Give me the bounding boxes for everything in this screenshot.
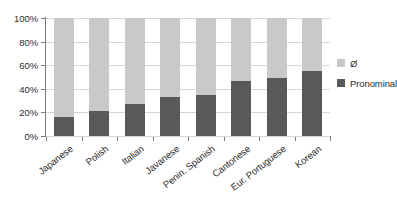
y-axis-tick-label: 0%	[24, 131, 38, 142]
plot-area	[46, 18, 330, 136]
y-axis-tick-mark	[41, 89, 46, 90]
legend-label-null: Ø	[350, 58, 357, 69]
bar-segment-null[interactable]	[160, 18, 180, 97]
bar-group[interactable]	[160, 18, 180, 136]
bar-group[interactable]	[54, 18, 74, 136]
y-axis-tick-label: 100%	[14, 13, 38, 24]
legend-swatch-null-icon	[337, 59, 345, 67]
bar-segment-null[interactable]	[196, 18, 216, 95]
y-axis-tick-mark	[41, 42, 46, 43]
x-axis-tick-mark	[295, 137, 296, 141]
bar-segment-null[interactable]	[54, 18, 74, 117]
x-axis-tick-mark	[259, 137, 260, 141]
bar-group[interactable]	[89, 18, 109, 136]
bar-segment-null[interactable]	[89, 18, 109, 111]
bar-segment-pronominal[interactable]	[196, 95, 216, 136]
bar-group[interactable]	[231, 18, 251, 136]
legend-item-pronominal[interactable]: Pronominal	[337, 75, 397, 91]
bar-segment-pronominal[interactable]	[302, 71, 322, 136]
bar-segment-null[interactable]	[267, 18, 287, 78]
bar-segment-pronominal[interactable]	[231, 81, 251, 136]
bar-segment-null[interactable]	[231, 18, 251, 81]
bar-segment-null[interactable]	[302, 18, 322, 71]
legend-label-pronominal: Pronominal	[350, 78, 397, 89]
y-axis-tick-mark	[41, 112, 46, 113]
bar-segment-pronominal[interactable]	[125, 104, 145, 136]
x-axis-tick-mark	[46, 137, 47, 141]
y-axis-tick-label: 60%	[19, 60, 38, 71]
bar-segment-pronominal[interactable]	[89, 111, 109, 136]
bar-group[interactable]	[302, 18, 322, 136]
y-axis-tick-label: 80%	[19, 36, 38, 47]
y-axis-tick-mark	[41, 65, 46, 66]
y-axis-tick-label: 40%	[19, 83, 38, 94]
legend-swatch-pronominal-icon	[337, 79, 345, 87]
y-axis-tick-mark	[41, 18, 46, 19]
chart-legend: Ø Pronominal	[337, 55, 397, 95]
x-axis-tick-mark	[330, 137, 331, 141]
legend-item-null[interactable]: Ø	[337, 55, 397, 71]
x-axis-tick-mark	[153, 137, 154, 141]
y-axis-tick-label: 20%	[19, 107, 38, 118]
x-axis-tick-mark	[82, 137, 83, 141]
x-axis-tick-mark	[224, 137, 225, 141]
bar-group[interactable]	[196, 18, 216, 136]
bar-segment-null[interactable]	[125, 18, 145, 104]
bar-group[interactable]	[267, 18, 287, 136]
x-axis-tick-mark	[117, 137, 118, 141]
bar-segment-pronominal[interactable]	[267, 78, 287, 136]
x-axis-tick-mark	[188, 137, 189, 141]
bar-segment-pronominal[interactable]	[160, 97, 180, 136]
bar-segment-pronominal[interactable]	[54, 117, 74, 136]
bar-group[interactable]	[125, 18, 145, 136]
y-axis-tick-mark	[41, 136, 46, 137]
